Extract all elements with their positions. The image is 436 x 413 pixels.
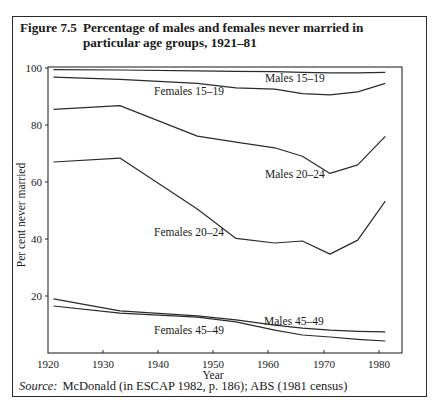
y-tick-label: 60 [31,176,43,188]
label-males-45-49: Males 45–49 [264,315,324,327]
y-axis-title: Per cent never married [15,163,27,268]
x-tick-label: 1920 [37,358,60,370]
x-axis: 1920 1930 1940 1950 1960 1970 1980 Year [37,350,391,381]
x-tick-label: 1930 [92,358,115,370]
y-tick-label: 40 [31,233,43,245]
plot-area [48,67,402,353]
y-tick-label: 100 [26,62,43,74]
label-females-20-24: Females 20–24 [154,226,224,238]
x-tick-label: 1940 [147,358,170,370]
series-lines [54,70,386,341]
label-females-45-49: Females 45–49 [154,324,224,336]
series-line-males-15-19 [54,70,386,73]
source-text: McDonald (in ESCAP 1982, p. 186); ABS (1… [62,379,347,393]
line-chart: 20 40 60 80 100 Per cent never married 1… [0,0,436,413]
label-males-15-19: Males 15–19 [265,72,325,84]
series-line-males-20-24 [54,106,386,174]
source-note: Source:McDonald (in ESCAP 1982, p. 186);… [19,379,347,394]
y-tick-label: 80 [31,119,43,131]
series-line-females-20-24 [54,158,386,254]
y-tick-label: 20 [31,290,43,302]
source-label: Source: [19,379,57,393]
label-females-15-19: Females 15–19 [154,85,224,97]
x-tick-label: 1980 [368,358,391,370]
label-males-20-24: Males 20–24 [265,168,325,180]
x-tick-label: 1970 [313,358,336,370]
y-axis: 20 40 60 80 100 Per cent never married [15,62,48,302]
x-tick-label: 1960 [257,358,280,370]
